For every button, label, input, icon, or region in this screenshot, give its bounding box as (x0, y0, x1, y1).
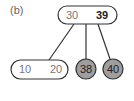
root-node: 30 39 (58, 6, 117, 24)
root-key-2: 39 (96, 9, 108, 21)
left-key-2: 20 (50, 63, 62, 75)
leaf-38: 38 (76, 59, 96, 79)
left-child-node: 10 20 (11, 60, 68, 79)
tree-diagram: 30 39 10 20 38 40 (0, 0, 134, 101)
edge-root-40 (98, 24, 110, 59)
leaf-40-key: 40 (107, 63, 119, 75)
leaf-38-key: 38 (80, 63, 92, 75)
leaf-40: 40 (103, 59, 123, 79)
root-key-1: 30 (66, 9, 78, 21)
left-key-1: 10 (19, 63, 31, 75)
edge-root-left (49, 24, 74, 60)
